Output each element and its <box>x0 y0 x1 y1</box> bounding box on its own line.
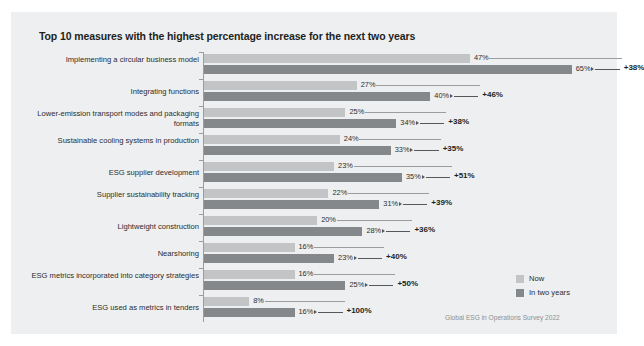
increase-label: +36% <box>414 225 435 234</box>
category-label: Lightweight construction <box>23 222 199 232</box>
increase-label: +38% <box>448 117 469 126</box>
bar-now <box>204 162 334 171</box>
leader-line <box>314 274 395 275</box>
bar-in-two-years <box>204 254 334 263</box>
category-label: Nearshoring <box>23 249 199 259</box>
bar-value-now: 27% <box>361 80 376 89</box>
increase-label: +39% <box>431 198 452 207</box>
bar-in-two-years <box>204 92 430 101</box>
increase-label: +38% <box>624 63 644 72</box>
legend-item[interactable]: Now <box>516 274 570 283</box>
bar-now <box>204 216 317 225</box>
bar-value-now: 25% <box>349 107 364 116</box>
legend-swatch-icon <box>516 289 524 297</box>
increase-arrow-head <box>591 67 594 71</box>
leader-line <box>265 301 345 302</box>
increase-arrow-head <box>354 256 357 260</box>
bar-value-in-two-years: 65% <box>576 64 591 73</box>
increase-arrow-line <box>595 69 619 70</box>
category-label: ESG metrics incorporated into category s… <box>23 271 199 281</box>
bar-value-in-two-years: 40% <box>434 91 449 100</box>
bar-group: 27%40%+46% <box>204 79 617 106</box>
bar-row: Lower-emission transport modes and packa… <box>11 106 617 133</box>
chart-legend: NowIn two years <box>516 274 570 302</box>
leader-line <box>337 220 413 221</box>
bar-value-now: 23% <box>338 161 353 170</box>
bar-value-in-two-years: 34% <box>400 118 415 127</box>
bar-group: 25%34%+38% <box>204 106 617 133</box>
legend-item[interactable]: In two years <box>516 288 570 297</box>
category-label: Implementing a circular business model <box>23 55 199 65</box>
category-label: Sustainable cooling systems in productio… <box>23 136 199 146</box>
bar-in-two-years <box>204 173 402 182</box>
bar-value-in-two-years: 33% <box>395 145 410 154</box>
bar-row: Sustainable cooling systems in productio… <box>11 133 617 160</box>
chart-title: Top 10 measures with the highest percent… <box>39 30 415 42</box>
bar-group: 16%23%+40% <box>204 241 617 268</box>
bar-now <box>204 108 345 117</box>
increase-arrow-head <box>416 121 419 125</box>
increase-arrow-head <box>422 175 425 179</box>
increase-arrow-line <box>403 204 427 205</box>
bar-now <box>204 297 249 306</box>
bar-group: 23%35%+51% <box>204 160 617 187</box>
bar-value-in-two-years: 28% <box>366 226 381 235</box>
bar-now <box>204 135 340 144</box>
increase-arrow-line <box>386 231 410 232</box>
bar-row: ESG supplier development23%35%+51% <box>11 160 617 187</box>
increase-arrow-line <box>420 123 444 124</box>
increase-arrow-line <box>369 285 393 286</box>
bar-value-now: 22% <box>332 188 347 197</box>
bar-group: 24%33%+35% <box>204 133 617 160</box>
increase-label: +46% <box>482 90 503 99</box>
bar-group: 22%31%+39% <box>204 187 617 214</box>
leader-line <box>376 85 480 86</box>
increase-arrow-head <box>382 229 385 233</box>
leader-line <box>489 58 621 59</box>
increase-arrow-line <box>318 312 342 313</box>
bar-now <box>204 54 470 63</box>
category-label: Supplier sustainability tracking <box>23 190 199 200</box>
bar-in-two-years <box>204 146 391 155</box>
bar-in-two-years <box>204 65 572 74</box>
increase-label: +50% <box>397 279 418 288</box>
source-caption: Global ESG in Operations Survey 2022 <box>445 314 560 321</box>
bar-now <box>204 81 357 90</box>
increase-arrow-line <box>426 177 450 178</box>
bar-now <box>204 270 295 279</box>
bar-row: Nearshoring16%23%+40% <box>11 241 617 268</box>
increase-arrow-head <box>314 310 317 314</box>
leader-line <box>365 112 446 113</box>
bar-value-in-two-years: 25% <box>349 280 364 289</box>
chart-panel: Top 10 measures with the highest percent… <box>11 12 617 334</box>
legend-swatch-icon <box>516 275 524 283</box>
increase-label: +100% <box>347 306 372 315</box>
bar-value-now: 47% <box>474 53 489 62</box>
increase-label: +40% <box>386 252 407 261</box>
leader-line <box>314 247 384 248</box>
bar-value-now: 20% <box>321 215 336 224</box>
bar-row: Integrating functions27%40%+46% <box>11 79 617 106</box>
bar-value-now: 8% <box>253 296 264 305</box>
increase-arrow-head <box>365 283 368 287</box>
category-label: ESG supplier development <box>23 168 199 178</box>
bar-in-two-years <box>204 200 379 209</box>
increase-arrow-line <box>414 150 438 151</box>
increase-label: +51% <box>454 171 475 180</box>
bar-now <box>204 189 328 198</box>
increase-arrow-head <box>399 202 402 206</box>
bar-in-two-years <box>204 227 362 236</box>
bar-row: Supplier sustainability tracking22%31%+3… <box>11 187 617 214</box>
increase-arrow-head <box>410 148 413 152</box>
bar-now <box>204 243 295 252</box>
leader-line <box>348 193 429 194</box>
increase-arrow-head <box>450 94 453 98</box>
legend-label: Now <box>529 274 544 283</box>
bar-in-two-years <box>204 281 345 290</box>
bar-value-in-two-years: 23% <box>338 253 353 262</box>
category-label: ESG used as metrics in tenders <box>23 303 199 313</box>
increase-arrow-line <box>454 96 478 97</box>
bar-row: Lightweight construction20%28%+36% <box>11 214 617 241</box>
category-label: Integrating functions <box>23 87 199 97</box>
leader-line <box>354 166 452 167</box>
